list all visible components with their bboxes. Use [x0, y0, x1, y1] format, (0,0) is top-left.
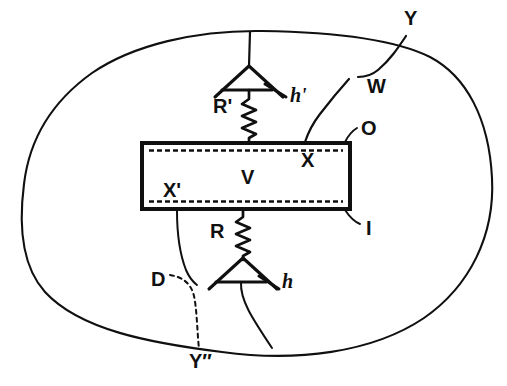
label-y-top: Y — [404, 8, 417, 28]
label-d-dashed-node: D — [151, 269, 165, 289]
label-v-box-interior: V — [241, 167, 254, 187]
feedback-curve-lower — [305, 79, 349, 142]
label-r-resistor: R — [210, 221, 224, 241]
bottom-lead-line — [241, 282, 272, 348]
x-prime-lead-curve — [177, 211, 197, 285]
label-w-feedback: W — [367, 76, 386, 96]
label-o-output: O — [361, 118, 377, 138]
label-x-prime-box-bottom-left: X' — [163, 180, 181, 200]
lower-triangle-amplifier — [209, 258, 277, 289]
upper-resistor-zigzag — [242, 90, 256, 143]
input-leader-line — [345, 210, 360, 224]
figure-container: Y W O I V X X' R' R h' h D Y″ — [0, 0, 507, 386]
lower-resistor-zigzag — [236, 209, 250, 260]
diagram-canvas — [0, 0, 507, 386]
label-y-double-prime-bottom: Y″ — [189, 351, 212, 371]
label-h-gain: h — [282, 271, 293, 291]
top-lead-line — [249, 32, 250, 66]
label-x-box-top-right: X — [301, 150, 314, 170]
output-leader-line — [345, 128, 357, 142]
label-r-prime-resistor: R' — [213, 96, 232, 116]
dashed-d-to-y-line — [170, 275, 199, 349]
label-h-prime-gain: h' — [290, 85, 307, 105]
label-i-input: I — [366, 218, 372, 238]
